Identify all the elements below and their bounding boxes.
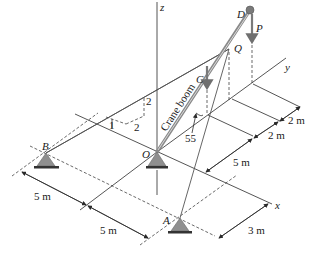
point-q-label: Q xyxy=(234,42,242,54)
ground-grid xyxy=(12,49,300,245)
point-c-label: C xyxy=(196,73,204,85)
load-label: P xyxy=(255,22,263,34)
angle-annotation: 55 xyxy=(185,113,203,144)
support-b xyxy=(34,153,59,169)
dim-y-seg-1: 2 m xyxy=(288,114,305,126)
x-axis-label: x xyxy=(274,199,280,211)
projection-lines xyxy=(207,45,252,115)
dim-x-seg-2: 5 m xyxy=(100,224,117,236)
z-axis-label: z xyxy=(159,1,165,13)
dim-y-seg-3: 5 m xyxy=(233,156,250,168)
support-a xyxy=(168,218,192,234)
dim-x-seg-1: 5 m xyxy=(34,190,51,202)
dim-y-seg-2: 2 m xyxy=(268,129,285,141)
point-labels: D Q C O B A xyxy=(42,8,245,226)
point-o-label: O xyxy=(142,148,150,160)
slope-run-label: 2 xyxy=(134,121,140,133)
pulley-icon xyxy=(246,6,254,14)
angle-label: 55 xyxy=(185,132,197,144)
point-d-label: D xyxy=(236,8,245,20)
slope-one-label: 1 xyxy=(109,119,115,131)
y-axis-label: y xyxy=(284,61,290,73)
slope-rise-label: 2 xyxy=(146,95,152,107)
boom-label: Crane boom xyxy=(158,81,198,133)
crane-boom-diagram: z x y xyxy=(0,0,310,254)
point-a-label: A xyxy=(162,214,170,226)
dim-a-offset: 3 m xyxy=(248,224,265,236)
point-b-label: B xyxy=(42,140,49,152)
